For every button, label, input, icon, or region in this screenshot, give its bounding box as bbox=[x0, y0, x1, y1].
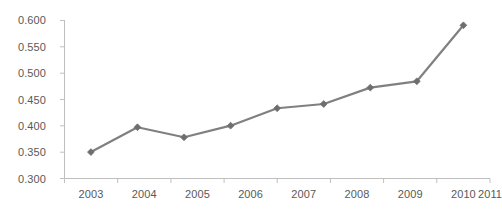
y-axis-label-6: 0.300 bbox=[4, 173, 46, 185]
y-axis bbox=[60, 20, 65, 179]
x-axis-label-2008: 2008 bbox=[327, 188, 387, 200]
data-point-2009 bbox=[367, 84, 374, 91]
x-axis-label-2004: 2004 bbox=[114, 188, 174, 200]
y-axis-label-5: 0.350 bbox=[4, 146, 46, 158]
data-point-2005 bbox=[181, 134, 188, 141]
x-axis-label-2011: 2011 bbox=[460, 188, 502, 200]
y-axis-label-1: 0.550 bbox=[4, 41, 46, 53]
data-point-2008 bbox=[320, 101, 327, 108]
y-axis-label-3: 0.450 bbox=[4, 94, 46, 106]
x-axis-label-2009: 2009 bbox=[380, 188, 440, 200]
x-axis-label-2006: 2006 bbox=[221, 188, 281, 200]
y-axis-label-4: 0.400 bbox=[4, 120, 46, 132]
y-axis-label-2: 0.500 bbox=[4, 67, 46, 79]
data-point-2006 bbox=[227, 122, 234, 129]
x-axis bbox=[65, 179, 491, 184]
x-axis-label-2005: 2005 bbox=[168, 188, 228, 200]
data-line-series-1 bbox=[91, 25, 464, 152]
line-chart: 0.600 0.550 0.500 0.450 0.400 0.350 0.30… bbox=[0, 0, 502, 209]
x-axis-label-2007: 2007 bbox=[274, 188, 334, 200]
x-axis-label-2003: 2003 bbox=[61, 188, 121, 200]
chart-plot-area bbox=[0, 0, 502, 209]
data-markers-series-1 bbox=[88, 22, 467, 156]
y-axis-label-0: 0.600 bbox=[4, 14, 46, 26]
data-point-2007 bbox=[274, 105, 281, 112]
